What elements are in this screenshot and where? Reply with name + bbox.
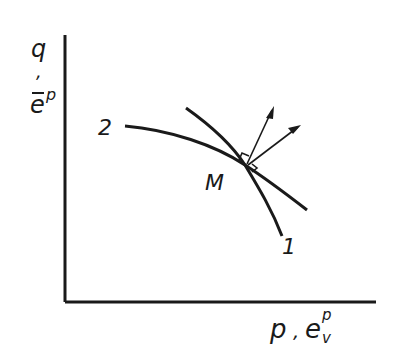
y-axis-label-q: q: [31, 35, 46, 63]
curve-1: [186, 108, 282, 236]
y-axis-label-sep: ,: [36, 61, 42, 82]
x-axis-label-e-sup: p: [321, 306, 332, 324]
curve-2-label: 2: [98, 115, 112, 140]
arrowhead-icon: [266, 106, 274, 119]
x-axis-label-p: p: [269, 314, 287, 344]
x-axis-label-e: e: [305, 314, 321, 344]
diagram-canvas: q , e p 2 1 M p , e p v: [0, 0, 394, 351]
y-axis-label-e-sup: p: [45, 85, 56, 104]
x-axis-label-e-sub: v: [322, 329, 332, 347]
curve-2: [125, 126, 307, 210]
point-m-label: M: [205, 170, 224, 195]
x-axis-label-sep: ,: [293, 319, 299, 343]
y-axis-label-e: e: [30, 91, 45, 119]
curve-1-label: 1: [282, 234, 296, 259]
